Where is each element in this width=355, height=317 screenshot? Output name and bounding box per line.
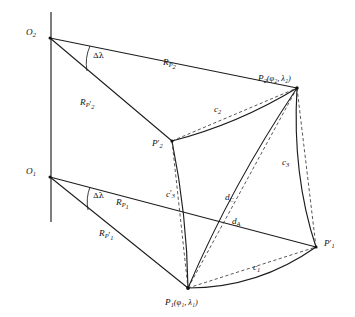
label-o2: O2 bbox=[26, 27, 37, 38]
label-p2: P2(φ₂, λ₂) bbox=[257, 73, 291, 84]
vertex-dot-p2 bbox=[295, 86, 298, 89]
label-c2: c2 bbox=[214, 104, 222, 115]
label-angle-upper: Δλ bbox=[93, 51, 104, 60]
label-p1-prime: P′1 bbox=[323, 238, 335, 249]
chord-c2 bbox=[172, 88, 297, 141]
vertex-dot-p2-prime bbox=[170, 139, 173, 142]
vertex-dot-p1 bbox=[186, 286, 190, 290]
label-r-p2: RP2 bbox=[162, 57, 177, 70]
ray-o2-to-p2-prime bbox=[50, 38, 172, 141]
label-c3: c3 bbox=[282, 157, 289, 168]
label-r-p2-prime: RP′2 bbox=[79, 97, 95, 110]
label-r-p1-prime: RP′1 bbox=[98, 228, 113, 241]
vertex-dot-o1 bbox=[49, 176, 52, 179]
diagram-root: O2 O1 P2(φ₂, λ₂) P′2 P1(φ₁, λ₁) P′1 Δλ Δ… bbox=[0, 0, 355, 317]
label-p1: P1(φ₁, λ₁) bbox=[164, 297, 198, 308]
angle-arc-lower bbox=[87, 187, 90, 210]
angle-arc-upper bbox=[86, 46, 90, 71]
label-o1: O1 bbox=[26, 166, 36, 177]
label-angle-lower: Δλ bbox=[93, 191, 104, 200]
label-d-a: dA bbox=[232, 216, 241, 227]
vertex-dot-p1-prime bbox=[314, 245, 317, 248]
label-r-p1: RP1 bbox=[115, 197, 129, 210]
label-c3-prime: c′3 bbox=[166, 189, 175, 200]
geodetic-quadrilateral-figure: O2 O1 P2(φ₂, λ₂) P′2 P1(φ₁, λ₁) P′1 Δλ Δ… bbox=[0, 0, 355, 317]
label-p2-prime: P′2 bbox=[151, 138, 163, 149]
chord-c3 bbox=[297, 88, 316, 247]
vertex-dot-o2 bbox=[49, 37, 52, 40]
chord-c3-prime bbox=[172, 141, 188, 288]
label-c1: c1 bbox=[253, 262, 260, 273]
